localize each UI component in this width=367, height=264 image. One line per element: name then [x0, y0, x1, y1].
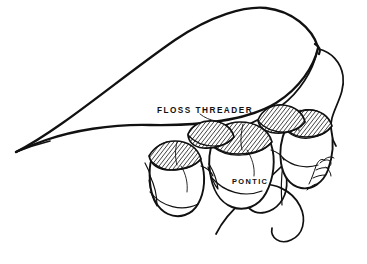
- floss-threader-illustration: FLOSS THREADER PONTIC: [0, 0, 367, 264]
- floss-threader-label: FLOSS THREADER: [157, 106, 253, 115]
- pontic-label: PONTIC: [232, 177, 268, 186]
- figure-canvas: FLOSS THREADER PONTIC: [0, 0, 367, 264]
